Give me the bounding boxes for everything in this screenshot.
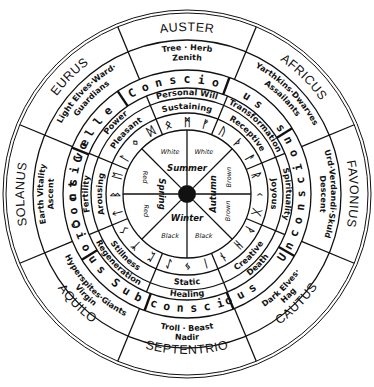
rune-glyph: ᚹ (242, 224, 257, 237)
quality-inner-label: Static (173, 276, 201, 287)
rune-glyph: ᛒ (109, 191, 122, 198)
rune-glyph: ᛚ (117, 152, 132, 165)
divider-line (302, 125, 355, 147)
quality-outer-label: Fertility (80, 174, 92, 214)
rune-glyph: ᛊ (117, 224, 132, 237)
divider-line (234, 309, 256, 362)
quality-outer-label: Healing (169, 288, 205, 299)
being-label: Troll · Beast (160, 321, 214, 333)
divider-line (302, 241, 355, 263)
wind-label: FAVONIUS (344, 159, 361, 229)
season-color-label: Black (195, 232, 213, 240)
rune-glyph: ᚠ (201, 117, 211, 131)
rune-glyph: ᚦ (231, 136, 245, 150)
rune-glyph: ᚲ (253, 191, 266, 198)
season-label: Summer (167, 163, 208, 173)
season-color-label: Brown (225, 201, 233, 222)
quality-inner-label: Joyous (269, 177, 281, 211)
being-label: Yarthkins·Dwarves (253, 60, 320, 127)
rune-glyph: ᛖ (110, 170, 124, 180)
rune-glyph: ᛁ (201, 256, 211, 270)
consciousness-label: o u s (223, 280, 259, 308)
rune-glyph: ᛗ (184, 116, 191, 129)
rune-glyph: ᚨ (242, 152, 257, 165)
direction-label: Ascent (46, 178, 56, 210)
rune-glyph: ᛏ (110, 208, 124, 218)
rune-glyph: ᛜ (129, 136, 143, 150)
being-label: Earth Vitality (36, 162, 48, 225)
rune-glyph: ᚷ (249, 207, 264, 218)
divider-line (118, 91, 128, 106)
rune-glyph: ᚱ (249, 170, 263, 180)
direction-label: Descent (318, 175, 328, 213)
rune-glyph: ᛃ (184, 260, 191, 273)
season-color-label: Brown (225, 167, 233, 188)
season-label: Autumn (208, 175, 218, 214)
wind-label: SOLANUS (13, 161, 30, 228)
rune-glyph: ᛟ (163, 117, 173, 131)
rune-wheel-diagram: AUSTERAFRICUSFAVONIUSCAUTUSSEPTENTRIOAQU… (0, 0, 374, 387)
rune-glyph: ᛈ (145, 249, 158, 264)
divider-line (20, 125, 73, 147)
season-color-label: Red (141, 205, 149, 219)
season-label: Spring (157, 178, 167, 209)
center-hub (178, 185, 196, 203)
season-color-label: Red (141, 171, 149, 185)
season-color-label: White (161, 148, 180, 156)
rune-glyph: ᚾ (217, 249, 230, 264)
rune-glyph: ᚺ (231, 238, 245, 252)
direction-label: Zenith (172, 53, 203, 63)
season-color-label: White (194, 148, 213, 156)
divider-line (118, 27, 140, 80)
rune-glyph: ᛞ (144, 124, 157, 139)
divider-line (118, 309, 140, 362)
rune-glyph: ᛇ (163, 256, 173, 270)
divider-line (20, 241, 73, 263)
rune-glyph: ᚢ (217, 124, 230, 139)
direction-label: Nadir (175, 333, 200, 343)
rune-glyph: ᛉ (129, 238, 143, 252)
quality-outer-label: Personal Will (155, 87, 220, 102)
divider-line (223, 77, 229, 94)
wind-label: AUSTER (159, 20, 216, 36)
season-label: Winter (171, 213, 204, 223)
quality-inner-label: Arousing (94, 172, 106, 216)
being-label: Tree · Herb (161, 43, 213, 54)
season-color-label: Black (161, 232, 179, 240)
divider-line (234, 27, 256, 80)
